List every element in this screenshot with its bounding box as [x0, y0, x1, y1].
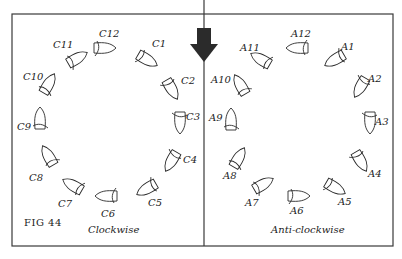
- boat-label: C7: [58, 198, 73, 209]
- boat-label: C4: [183, 154, 197, 165]
- boat-label: C8: [29, 172, 43, 183]
- boat-icon: [227, 144, 251, 171]
- boat-label: A2: [367, 73, 382, 84]
- boat-label: C5: [148, 197, 162, 208]
- anti-clockwise-panel: A12A1A2A3A4A5A6A7A8A9A10A11: [208, 28, 389, 216]
- figure-44: C12C1C2C3C4C5C6C7C8C9C10C11 A12A1A2A3A4A…: [0, 0, 402, 259]
- boat-label: A10: [210, 74, 232, 85]
- boat-icon: [65, 46, 92, 70]
- boat-icon: [286, 40, 308, 55]
- figure-number: FIG 44: [24, 217, 62, 228]
- boat-label: C2: [181, 75, 195, 86]
- caption-clockwise: Clockwise: [88, 224, 139, 235]
- boat-label: C9: [17, 121, 32, 132]
- boat-label: C12: [99, 28, 119, 39]
- boat-label: A9: [208, 112, 223, 123]
- boat-icon: [36, 142, 60, 169]
- clockwise-panel: C12C1C2C3C4C5C6C7C8C9C10C11: [17, 28, 200, 219]
- boat-label: A8: [222, 170, 237, 181]
- boat-icon: [288, 189, 310, 204]
- boat-icon: [160, 77, 184, 104]
- boat-label: C6: [101, 208, 116, 219]
- boat-label: A6: [289, 205, 304, 216]
- wind-arrow-icon: [190, 28, 218, 62]
- boat-icon: [251, 172, 278, 196]
- boat-label: C11: [53, 39, 73, 50]
- boat-label: C1: [152, 38, 166, 49]
- boat-icon: [95, 188, 117, 203]
- boat-icon: [172, 112, 187, 134]
- boat-label: A7: [244, 197, 259, 208]
- boat-label: C3: [186, 111, 200, 122]
- boat-icon: [94, 41, 116, 56]
- boat-icon: [59, 173, 86, 197]
- boat-label: A11: [239, 42, 260, 53]
- boat-icon: [159, 148, 183, 175]
- boat-label: A4: [367, 168, 382, 179]
- boat-label: A5: [337, 196, 352, 207]
- boat-label: A3: [374, 116, 389, 127]
- caption-anti-clockwise: Anti-clockwise: [270, 224, 345, 235]
- boat-label: A1: [340, 41, 355, 52]
- boat-icon: [228, 71, 252, 98]
- boat-icon: [134, 48, 161, 72]
- boat-icon: [224, 108, 239, 130]
- boat-icon: [33, 107, 48, 129]
- boat-label: C10: [23, 71, 44, 82]
- boat-label: A12: [290, 28, 311, 39]
